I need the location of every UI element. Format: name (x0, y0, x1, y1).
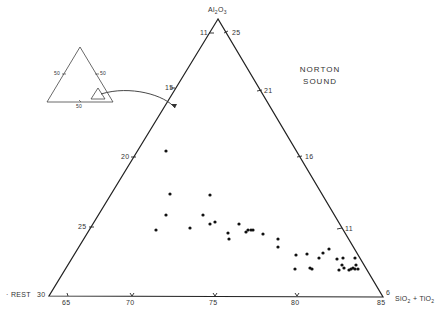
tick-label-bottom-85: 85 (377, 299, 385, 306)
data-point (227, 237, 230, 240)
inset-tick-bottom: 50 (76, 103, 82, 109)
data-point (321, 251, 324, 254)
data-point (168, 192, 171, 195)
inset-tick-left: 50 (54, 70, 60, 76)
ternary-diagram (0, 0, 447, 316)
data-point (261, 232, 264, 235)
tick-label-left-15: 15 (165, 84, 173, 91)
data-point (164, 213, 167, 216)
zoom-arrow (101, 91, 175, 108)
tick-label-apex-right: 25 (232, 29, 240, 36)
data-point (201, 213, 204, 216)
data-point (356, 267, 359, 270)
inset-tick-right: 50 (100, 70, 106, 76)
data-point (293, 267, 296, 270)
tick-label-right-21: 21 (264, 87, 272, 94)
tick-label-bottom-80: 80 (291, 299, 299, 306)
data-point (164, 149, 167, 152)
data-point (342, 266, 345, 269)
tick-label-left-20: 20 (121, 153, 129, 160)
data-point (305, 252, 308, 255)
data-point (353, 267, 356, 270)
data-point (354, 263, 357, 266)
bottom-edge-ticks (67, 293, 299, 296)
data-point (317, 256, 320, 259)
data-point (327, 247, 330, 250)
left-axis-label: · REST (6, 291, 31, 298)
apex-label: Al2O3 (208, 6, 227, 15)
tick-label-bottom-65: 65 (62, 299, 70, 306)
data-point (335, 257, 338, 260)
data-point (276, 245, 279, 248)
tick-label-apex-left: 11 (200, 29, 208, 36)
tick-label-left-30: 30 (37, 291, 45, 298)
left-edge-ticks (89, 33, 214, 227)
data-point (154, 228, 157, 231)
data-point (188, 226, 191, 229)
data-point (208, 222, 211, 225)
data-point (340, 263, 343, 266)
tick-label-right-16: 16 (305, 153, 313, 160)
data-point (226, 231, 229, 234)
tick-label-bottom-70: 70 (126, 299, 134, 306)
data-point (341, 256, 344, 259)
tick-label-right-6: 6 (386, 289, 390, 296)
data-point (251, 228, 254, 231)
data-point (246, 228, 249, 231)
data-point (337, 268, 340, 271)
data-point (353, 256, 356, 259)
data-point (237, 222, 240, 225)
right-edge-ticks (224, 31, 342, 229)
right-axis-label: SiO2 + TiO2 (395, 295, 434, 304)
tick-label-left-25: 25 (78, 223, 86, 230)
data-point (294, 253, 297, 256)
tick-label-right-11: 11 (345, 225, 353, 232)
tick-label-bottom-75: 75 (209, 299, 217, 306)
diagram-title: NORTON SOUND (285, 64, 355, 88)
data-point (213, 220, 216, 223)
data-point (276, 237, 279, 240)
data-point (310, 267, 313, 270)
data-points (154, 149, 359, 271)
data-point (208, 193, 211, 196)
main-triangle (49, 19, 383, 297)
